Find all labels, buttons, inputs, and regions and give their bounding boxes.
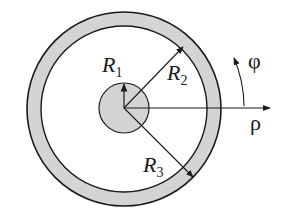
coaxial-diagram: R1 R2 R3 φ ρ xyxy=(0,0,283,220)
label-phi: φ xyxy=(248,48,261,73)
phi-arc-arrow xyxy=(234,58,244,106)
label-r2: R2 xyxy=(166,60,187,88)
label-r1: R1 xyxy=(101,52,122,80)
label-rho: ρ xyxy=(250,110,261,135)
label-r3: R3 xyxy=(142,152,163,180)
